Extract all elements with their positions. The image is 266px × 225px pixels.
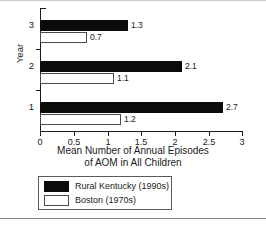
bar-label-year3-boston: 0.7: [90, 32, 102, 43]
bar-label-year1-boston: 1.2: [124, 114, 136, 125]
bar-label-year3-rural-kentucky: 1.3: [131, 20, 143, 31]
x-axis-title-line2: of AOM in All Children: [28, 157, 238, 169]
x-axis-tick-2: [175, 131, 176, 136]
x-axis-tick-3: [242, 131, 243, 136]
legend-item-rural-kentucky[interactable]: Rural Kentucky (1990s): [44, 180, 169, 193]
bar-year3-rural-kentucky[interactable]: [40, 20, 128, 31]
bar-year2-boston[interactable]: [40, 73, 114, 84]
x-axis-tick-0: [40, 131, 41, 136]
bar-year2-rural-kentucky[interactable]: [40, 61, 182, 72]
legend-item-boston[interactable]: Boston (1970s): [44, 194, 136, 207]
plot-area: 1.3 0.7 2.1 1.1 2.7 1.2 0 0.5 1 1.5 2 2.…: [40, 8, 243, 132]
bottom-divider: [0, 218, 266, 219]
x-axis-tick-0.5: [74, 131, 75, 136]
bar-label-year1-rural-kentucky: 2.7: [226, 102, 238, 113]
chart-legend: Rural Kentucky (1990s) Boston (1970s): [38, 176, 172, 210]
x-axis-tick-2.5: [209, 131, 210, 136]
y-axis-title: Year: [14, 34, 25, 74]
y-axis-top-cap: [40, 8, 46, 9]
legend-swatch-filled-icon: [44, 181, 69, 192]
bar-year1-rural-kentucky[interactable]: [40, 102, 223, 113]
y-axis-tick-sep-2-1: [36, 90, 41, 91]
x-axis-tick-1: [108, 131, 109, 136]
x-axis-title-line1: Mean Number of Annual Episodes: [28, 145, 238, 157]
bar-year1-boston[interactable]: [40, 114, 121, 125]
y-axis-category-label-1: 1: [18, 101, 34, 112]
y-axis-tick-sep-3-2: [36, 49, 41, 50]
x-axis-tick-1.5: [141, 131, 142, 136]
chart-figure: 1.3 0.7 2.1 1.1 2.7 1.2 0 0.5 1 1.5 2 2.…: [0, 0, 266, 225]
bar-label-year2-boston: 1.1: [117, 73, 129, 84]
legend-label-rural-kentucky: Rural Kentucky (1990s): [75, 181, 169, 192]
x-axis-title: Mean Number of Annual Episodes of AOM in…: [28, 145, 238, 169]
bar-year3-boston[interactable]: [40, 32, 87, 43]
legend-swatch-open-icon: [44, 195, 69, 206]
y-axis-category-label-3: 3: [18, 19, 34, 30]
bar-label-year2-rural-kentucky: 2.1: [185, 61, 197, 72]
legend-label-boston: Boston (1970s): [75, 195, 136, 206]
top-divider: [0, 0, 266, 1]
